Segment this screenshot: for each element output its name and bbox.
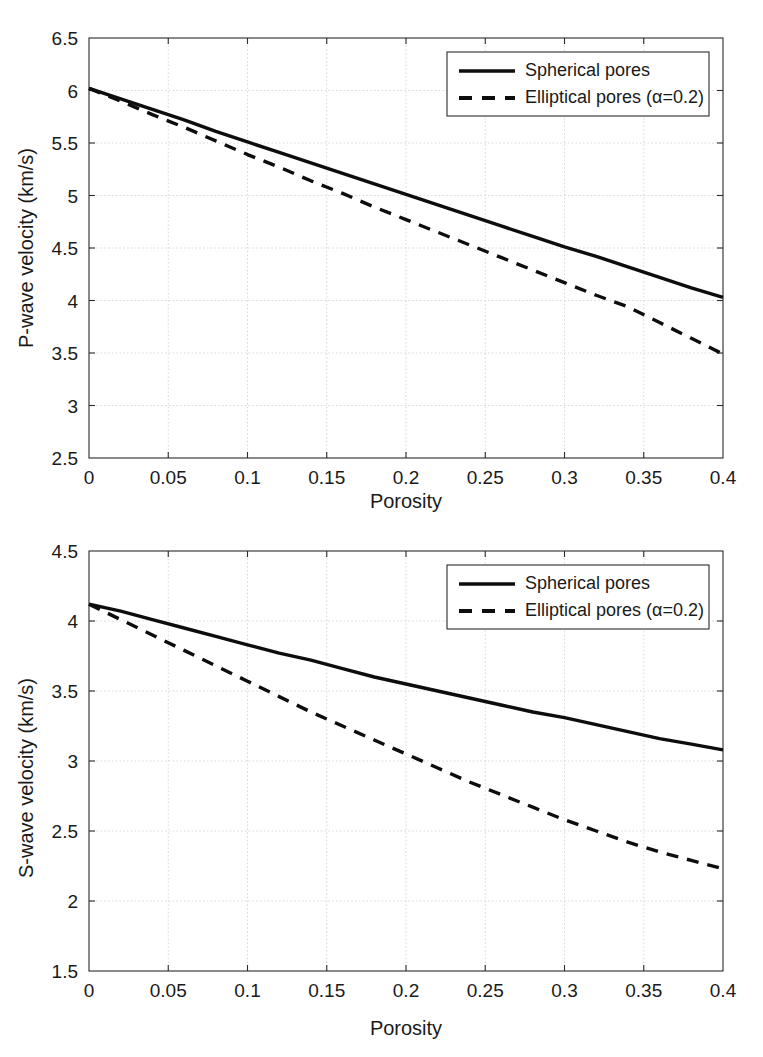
x-tick-labels-s-wave: 00.050.10.150.20.250.30.350.4 [84,980,737,1001]
chart-panel-p-wave: 00.050.10.150.20.250.30.350.4 2.533.544.… [0,0,763,530]
x-tick-label: 0.1 [234,980,260,1001]
y-tick-label: 2.5 [52,448,78,469]
s-wave-chart-svg: 00.050.10.150.20.250.30.350.4 1.522.533.… [0,530,763,1057]
x-tick-labels-p-wave: 00.050.10.150.20.250.30.350.4 [84,467,737,488]
x-tick-label: 0.4 [710,980,737,1001]
figure-two-panel-velocity-porosity: 00.050.10.150.20.250.30.350.4 2.533.544.… [0,0,763,1057]
legend-label-elliptical-pores: Elliptical pores (α=0.2) [525,87,704,107]
series-line-elliptical-pores [89,88,723,354]
y-axis-title-s-wave: S-wave velocity (km/s) [15,678,37,878]
y-tick-label: 5.5 [52,133,78,154]
x-tick-label: 0.15 [308,467,345,488]
x-tick-label: 0.4 [710,467,737,488]
x-tick-label: 0.25 [467,980,504,1001]
x-tick-label: 0 [84,980,95,1001]
legend-p-wave[interactable]: Spherical poresElliptical pores (α=0.2) [447,52,709,116]
y-tick-label: 2.5 [52,821,78,842]
legend-label-spherical-pores: Spherical pores [525,60,650,80]
x-tick-label: 0.3 [551,467,577,488]
y-tick-label: 4.5 [52,238,78,259]
x-tick-label: 0.15 [308,980,345,1001]
series-group-p-wave [89,88,723,354]
chart-panel-s-wave: 00.050.10.150.20.250.30.350.4 1.522.533.… [0,530,763,1057]
legend-s-wave[interactable]: Spherical poresElliptical pores (α=0.2) [447,565,709,629]
p-wave-chart-svg: 00.050.10.150.20.250.30.350.4 2.533.544.… [0,0,763,530]
y-tick-label: 3 [67,751,78,772]
x-tick-label: 0.1 [234,467,260,488]
y-tick-labels-p-wave: 2.533.544.555.566.5 [52,28,79,469]
x-axis-title-s-wave: Porosity [370,1017,442,1039]
legend-label-spherical-pores: Spherical pores [525,573,650,593]
legend-label-elliptical-pores: Elliptical pores (α=0.2) [525,600,704,620]
y-axis-title-p-wave: P-wave velocity (km/s) [15,148,37,348]
y-tick-label: 4 [67,611,78,632]
x-tick-label: 0.05 [150,980,187,1001]
x-tick-label: 0.05 [150,467,187,488]
x-tick-label: 0.3 [551,980,577,1001]
x-tick-label: 0.25 [467,467,504,488]
y-tick-label: 2 [67,891,78,912]
y-tick-labels-s-wave: 1.522.533.544.5 [52,541,79,982]
y-tick-label: 6.5 [52,28,78,49]
x-tick-label: 0.2 [393,980,419,1001]
y-tick-label: 1.5 [52,961,78,982]
x-tick-label: 0.2 [393,467,419,488]
x-axis-title-p-wave: Porosity [370,490,442,512]
y-tick-label: 6 [67,81,78,102]
x-tick-label: 0.35 [625,980,662,1001]
x-tick-label: 0 [84,467,95,488]
x-tick-label: 0.35 [625,467,662,488]
y-tick-label: 5 [67,186,78,207]
y-tick-label: 3 [67,396,78,417]
y-tick-label: 3.5 [52,681,78,702]
y-tick-label: 4.5 [52,541,78,562]
y-tick-label: 3.5 [52,343,78,364]
y-tick-label: 4 [67,291,78,312]
